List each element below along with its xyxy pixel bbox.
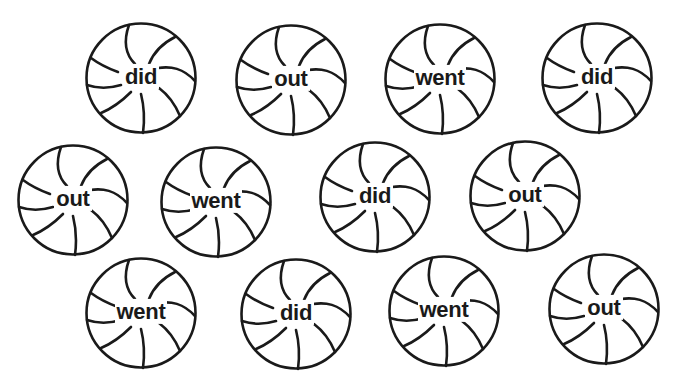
sight-word: out xyxy=(54,186,91,211)
peppermint-candy: out xyxy=(546,251,662,367)
sight-word: did xyxy=(278,300,314,325)
sight-word: out xyxy=(272,66,309,91)
peppermint-candy: did xyxy=(83,20,199,136)
sight-word: did xyxy=(579,64,615,89)
peppermint-word-worksheet: did out went did out went did out went d… xyxy=(0,0,673,390)
sight-word: went xyxy=(115,299,168,324)
peppermint-candy: did xyxy=(238,256,354,372)
peppermint-candy: went xyxy=(83,255,199,371)
peppermint-candy: went xyxy=(158,144,274,260)
sight-word: went xyxy=(190,188,243,213)
peppermint-candy: did xyxy=(539,20,655,136)
sight-word: out xyxy=(585,295,622,320)
sight-word: out xyxy=(506,182,543,207)
sight-word: did xyxy=(123,64,159,89)
sight-word: went xyxy=(414,65,467,90)
peppermint-candy: out xyxy=(233,22,349,138)
sight-word: did xyxy=(357,183,393,208)
sight-word: went xyxy=(418,297,471,322)
peppermint-candy: went xyxy=(386,253,502,369)
peppermint-candy: out xyxy=(467,138,583,254)
peppermint-candy: did xyxy=(317,139,433,255)
peppermint-candy: out xyxy=(15,142,131,258)
peppermint-candy: went xyxy=(382,21,498,137)
